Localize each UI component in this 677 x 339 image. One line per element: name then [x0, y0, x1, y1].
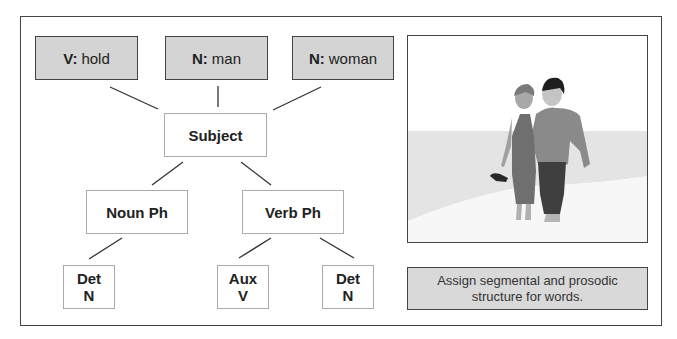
word-category: V:: [63, 50, 77, 67]
leaf-det-n-right: Det N: [322, 265, 374, 309]
node-subject: Subject: [164, 113, 267, 157]
leaf-line2: N: [84, 287, 95, 304]
caption-box: Assign segmental and prosodic structure …: [407, 267, 648, 310]
word-box-woman: N: woman: [292, 36, 394, 80]
connector-verbph-auxv: [239, 238, 271, 258]
connector-subject-verbph: [241, 162, 271, 185]
leaf-det-n-left: Det N: [63, 265, 115, 309]
leaf-line2: N: [343, 287, 354, 304]
beach-couple-photo: [407, 35, 648, 243]
caption-text: Assign segmental and prosodic structure …: [428, 273, 628, 305]
word-category: N:: [192, 50, 208, 67]
leaf-line1: Det: [77, 270, 101, 287]
connector-verbph-detn: [320, 238, 354, 258]
leaf-line1: Aux: [229, 270, 257, 287]
node-verb-phrase: Verb Ph: [242, 190, 344, 234]
leaf-aux-v: Aux V: [217, 265, 269, 309]
word-text: hold: [81, 50, 109, 67]
node-noun-phrase: Noun Ph: [86, 190, 188, 234]
leaf-line2: V: [238, 287, 248, 304]
connector-woman-subject: [273, 87, 321, 110]
couple-illustration: [408, 36, 648, 243]
leaf-line1: Det: [336, 270, 360, 287]
word-text: woman: [329, 50, 377, 67]
connector-subject-nounph: [152, 162, 183, 185]
word-box-man: N: man: [165, 36, 268, 80]
word-box-hold: V: hold: [35, 36, 138, 80]
word-text: man: [212, 50, 241, 67]
word-category: N:: [309, 50, 325, 67]
connector-nounph-detn: [89, 238, 122, 259]
connector-hold-subject: [110, 87, 158, 109]
